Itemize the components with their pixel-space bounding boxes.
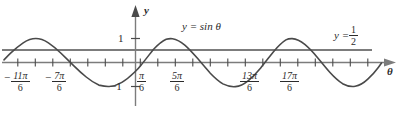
x-tick-numerator: 11π — [11, 71, 29, 81]
x-tick-label-5pi-over-6: 5π 6 — [170, 69, 184, 93]
y-axis-arrow — [131, 5, 139, 17]
half-line-label-lhs: y = — [334, 29, 349, 41]
x-tick-numerator: 7π — [52, 71, 66, 81]
x-tick-label-minus-11pi-over-6: − 11π 6 — [4, 69, 30, 93]
x-tick-denominator: 6 — [52, 81, 66, 93]
x-tick-denominator: 6 — [170, 81, 184, 93]
y-axis-label: y — [144, 5, 149, 16]
x-tick-denominator: 6 — [11, 81, 29, 93]
x-tick-label-17pi-over-6: 17π 6 — [280, 69, 299, 93]
sine-curve-label: y = sin θ — [182, 21, 221, 32]
x-tick-denominator: 6 — [280, 81, 299, 93]
half-line-label: y = 1 2 — [334, 25, 358, 47]
x-tick-numerator: 17π — [280, 71, 299, 81]
x-tick-sign: − — [4, 72, 11, 83]
x-tick-fraction: 17π 6 — [280, 71, 299, 93]
x-tick-label-minus-7pi-over-6: − 7π 6 — [45, 69, 66, 93]
x-tick-numerator: π — [137, 71, 146, 81]
x-tick-denominator: 6 — [240, 81, 259, 93]
sine-graph-figure: y θ 1 −1 y = sin θ y = 1 2 − 11π 6 − 7π … — [0, 0, 402, 116]
x-tick-label-13pi-over-6: 13π 6 — [240, 69, 259, 93]
x-tick-sign: − — [45, 72, 52, 83]
x-tick-label-pi-over-6: π 6 — [137, 69, 146, 93]
y-tick-label-one: 1 — [118, 33, 124, 44]
x-tick-fraction: 13π 6 — [240, 71, 259, 93]
x-tick-fraction: 11π 6 — [11, 71, 29, 93]
x-axis-label: θ — [387, 66, 393, 77]
graph-canvas — [0, 0, 402, 116]
x-tick-numerator: 5π — [170, 71, 184, 81]
half-line-numerator: 1 — [349, 25, 358, 35]
x-tick-denominator: 6 — [137, 81, 146, 93]
half-line-label-fraction: 1 2 — [349, 25, 358, 47]
x-tick-numerator: 13π — [240, 71, 259, 81]
x-tick-fraction: π 6 — [137, 71, 146, 93]
y-tick-label-negative-one: −1 — [110, 81, 122, 92]
x-tick-fraction: 5π 6 — [170, 71, 184, 93]
x-tick-fraction: 7π 6 — [52, 71, 66, 93]
half-line-denominator: 2 — [349, 35, 358, 47]
